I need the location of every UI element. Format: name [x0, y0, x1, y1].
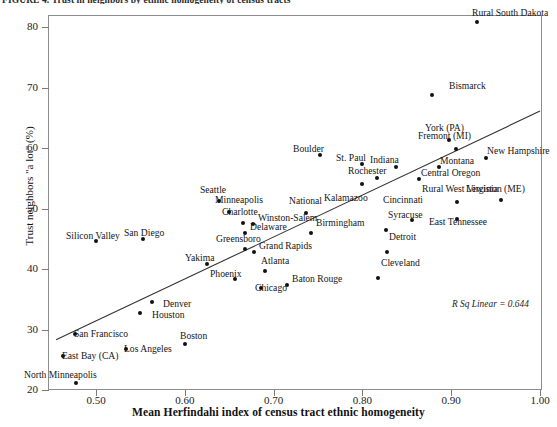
y-tick-mark — [42, 27, 49, 28]
data-point-label: East Tennessee — [429, 217, 487, 227]
data-point[interactable] — [454, 147, 458, 151]
data-point-label: Cleveland — [381, 258, 420, 268]
y-tick-mark — [42, 330, 49, 331]
data-point-label: Greensboro — [216, 234, 261, 244]
data-point-label: Chicago — [255, 283, 287, 293]
data-point-label: Phoenix — [210, 269, 241, 279]
y-tick-label: 40 — [8, 262, 38, 274]
data-point-label: Los Angeles — [124, 344, 172, 354]
data-point-label: East Bay (CA) — [62, 351, 119, 361]
x-tick-label: 1.00 — [515, 394, 557, 406]
data-point-label: Delaware — [250, 222, 287, 232]
r-squared-annotation: R Sq Linear = 0.644 — [452, 299, 529, 309]
y-tick-label: 30 — [8, 323, 38, 335]
data-point[interactable] — [394, 165, 398, 169]
data-point-label: St. Paul — [336, 153, 366, 163]
scatter-plot-figure: FIGURE 4. Trust in neighbors by ethnic h… — [0, 0, 557, 427]
data-point-label: Houston — [152, 310, 185, 320]
data-point[interactable] — [183, 342, 187, 346]
y-tick-label: 20 — [8, 383, 38, 395]
data-point-label: Fremont (MI) — [418, 131, 471, 141]
data-point-label: Grand Rapids — [259, 241, 312, 251]
data-point[interactable] — [304, 211, 308, 215]
data-point[interactable] — [499, 198, 503, 202]
data-point-label: San Diego — [124, 228, 164, 238]
data-point-label: Kalamazoo — [324, 193, 368, 203]
x-tick-label: 0.90 — [426, 394, 476, 406]
data-point-label: Silicon Valley — [66, 231, 120, 241]
data-point[interactable] — [360, 182, 364, 186]
x-tick-label: 0.50 — [71, 394, 121, 406]
figure-title: FIGURE 4. Trust in neighbors by ethnic h… — [2, 0, 462, 4]
data-point-label: Syracuse — [388, 210, 423, 220]
data-point[interactable] — [138, 311, 142, 315]
data-point[interactable] — [430, 93, 434, 97]
data-point-label: Lewiston (ME) — [466, 184, 525, 194]
data-point-label: Cincinnati — [383, 195, 423, 205]
y-tick-mark — [42, 209, 49, 210]
y-tick-label: 80 — [8, 20, 38, 32]
y-tick-label: 50 — [8, 202, 38, 214]
y-tick-mark — [42, 88, 49, 89]
data-point-label: Detroit — [389, 232, 416, 242]
data-point[interactable] — [484, 156, 488, 160]
data-point-label: Rural South Dakota — [472, 8, 548, 18]
data-point-label: New Hampshire — [487, 146, 550, 156]
x-tick-label: 0.60 — [160, 394, 210, 406]
data-point-label: Yakima — [185, 253, 214, 263]
y-tick-mark — [42, 390, 49, 391]
data-point-label: North Minneapolis — [24, 370, 97, 380]
data-point-label: Boulder — [293, 144, 324, 154]
data-point-label: Bismarck — [449, 81, 486, 91]
x-tick-label: 0.70 — [249, 394, 299, 406]
y-tick-mark — [42, 148, 49, 149]
data-point-label: Indiana — [370, 155, 399, 165]
x-tick-label: 0.80 — [337, 394, 387, 406]
data-point-label: Charlotte — [222, 207, 258, 217]
data-point-label: Rochester — [348, 166, 386, 176]
data-point-label: Denver — [163, 299, 191, 309]
data-point-label: San Francisco — [74, 329, 128, 339]
data-point-label: Minneapolis — [215, 195, 263, 205]
data-point-label: Birmingham — [316, 218, 365, 228]
y-tick-label: 60 — [8, 141, 38, 153]
data-point-label: National — [289, 196, 322, 206]
data-point-label: Boston — [180, 331, 207, 341]
x-axis-title: Mean Herfindahi index of census tract et… — [0, 406, 557, 418]
data-point-label: Baton Rouge — [292, 274, 342, 284]
y-tick-mark — [42, 269, 49, 270]
data-point-label: Central Oregon — [421, 168, 480, 178]
y-tick-label: 70 — [8, 81, 38, 93]
data-point-label: Montana — [440, 156, 474, 166]
data-point-label: Atlanta — [261, 256, 289, 266]
